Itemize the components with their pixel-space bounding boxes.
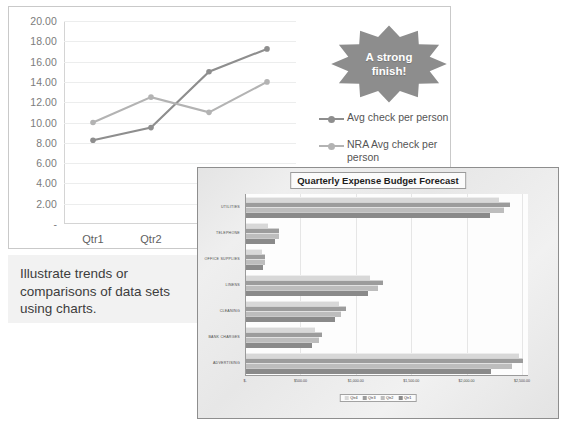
y-axis-tick-label: 18.00 bbox=[30, 35, 57, 47]
legend-swatch-icon bbox=[363, 396, 367, 400]
value-axis-tick-label: $500.00 bbox=[294, 379, 307, 383]
bar-segment bbox=[246, 290, 368, 296]
bar-legend-label: Qtr4 bbox=[350, 396, 357, 400]
y-axis-tick-label: 12.00 bbox=[30, 96, 57, 108]
category-label: BANK CHARGES bbox=[208, 335, 240, 339]
legend-label: Avg check per person bbox=[347, 111, 448, 124]
bar-legend-label: Qtr3 bbox=[368, 396, 375, 400]
legend-item-1[interactable]: Avg check per person bbox=[319, 111, 451, 125]
category-label: LINENS bbox=[226, 283, 240, 287]
bar-legend-item[interactable]: Qtr4 bbox=[345, 396, 358, 400]
legend-swatch-icon bbox=[398, 396, 402, 400]
y-axis-tick-label: 20.00 bbox=[30, 15, 57, 27]
bar-chart-panel[interactable]: Quarterly Expense Budget Forecast UTILIT… bbox=[197, 167, 559, 419]
line-data-point bbox=[90, 120, 96, 126]
bar-segment bbox=[246, 238, 275, 244]
bar-chart-category-axis bbox=[245, 375, 528, 376]
legend-label: NRA Avg check per person bbox=[347, 138, 451, 164]
x-axis-tick-label: Qtr2 bbox=[140, 233, 161, 245]
gridline bbox=[522, 194, 523, 376]
y-axis-tick-label: 4.00 bbox=[36, 177, 57, 189]
category-label: ADVERTISING bbox=[213, 361, 240, 365]
value-axis-tick-label: $1,500.00 bbox=[403, 379, 419, 383]
starburst-callout[interactable]: A strong finish! bbox=[329, 25, 449, 103]
line-data-point bbox=[206, 69, 212, 75]
line-data-point bbox=[90, 137, 96, 143]
bar-legend-label: Qtr1 bbox=[404, 396, 411, 400]
line-data-point bbox=[148, 125, 154, 131]
bar-segment bbox=[246, 264, 263, 270]
caption-text-box: Illustrate trends or comparisons of data… bbox=[8, 255, 203, 323]
y-axis-tick-label: 10.00 bbox=[30, 117, 57, 129]
category-label: UTILITIES bbox=[221, 205, 240, 209]
bar-segment bbox=[246, 212, 490, 218]
value-axis-tick-label: $2,500.00 bbox=[514, 379, 530, 383]
bar-segment bbox=[246, 368, 491, 374]
bar-legend-item[interactable]: Qtr3 bbox=[363, 396, 376, 400]
y-axis-tick-label: - bbox=[53, 218, 57, 230]
category-label: OFFICE SUPPLIES bbox=[204, 257, 240, 261]
y-axis-tick-label: 2.00 bbox=[36, 198, 57, 210]
gridline bbox=[411, 194, 412, 376]
bar-chart-legend[interactable]: Qtr4Qtr3Qtr2Qtr1 bbox=[340, 394, 417, 402]
bar-segment bbox=[246, 316, 335, 322]
bar-chart-plot-area: UTILITIESTELEPHONEOFFICE SUPPLIESLINENSC… bbox=[245, 194, 528, 376]
gridline bbox=[467, 194, 468, 376]
caption-label: Illustrate trends or comparisons of data… bbox=[20, 266, 170, 316]
legend-item-2[interactable]: NRA Avg check per person bbox=[319, 138, 451, 164]
bar-legend-item[interactable]: Qtr1 bbox=[398, 396, 411, 400]
legend-swatch-icon bbox=[381, 396, 385, 400]
value-axis-tick-label: $- bbox=[243, 379, 246, 383]
bar-chart-title: Quarterly Expense Budget Forecast bbox=[290, 172, 466, 189]
starburst-shape bbox=[329, 25, 449, 103]
value-axis-tick-label: $1,000.00 bbox=[348, 379, 364, 383]
y-axis-tick-label: 16.00 bbox=[30, 56, 57, 68]
line-data-point bbox=[264, 79, 270, 85]
value-axis-tick-label: $2,000.00 bbox=[459, 379, 475, 383]
bar-segment bbox=[246, 342, 312, 348]
bar-legend-item[interactable]: Qtr2 bbox=[381, 396, 394, 400]
y-axis-tick-label: 14.00 bbox=[30, 76, 57, 88]
x-axis-tick-label: Qtr1 bbox=[82, 233, 103, 245]
y-axis-tick-label: 8.00 bbox=[36, 137, 57, 149]
bar-legend-label: Qtr2 bbox=[386, 396, 393, 400]
legend-marker-icon bbox=[319, 113, 344, 125]
category-label: CLEANING bbox=[220, 309, 240, 313]
legend-marker-icon bbox=[319, 140, 344, 152]
y-axis-tick-label: 6.00 bbox=[36, 157, 57, 169]
line-series-2 bbox=[93, 82, 267, 123]
line-data-point bbox=[148, 94, 154, 100]
legend-swatch-icon bbox=[345, 396, 349, 400]
slide-canvas: -2.004.006.008.0010.0012.0014.0016.0018.… bbox=[0, 0, 564, 424]
line-data-point bbox=[264, 46, 270, 52]
category-label: TELEPHONE bbox=[216, 231, 240, 235]
line-data-point bbox=[206, 110, 212, 116]
